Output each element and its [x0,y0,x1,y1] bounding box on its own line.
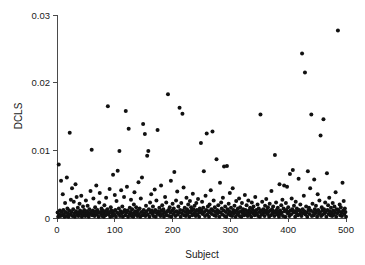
data-point [258,112,262,116]
data-point [306,169,310,173]
x-tick-label: 300 [222,224,238,235]
data-point [116,169,120,173]
data-point [171,202,175,206]
data-point [252,205,256,209]
data-point [314,204,318,208]
data-point [279,203,283,207]
data-point [74,182,78,186]
data-point [285,185,289,189]
data-point [146,149,150,153]
data-point [278,182,282,186]
data-point [61,192,65,196]
data-point [179,201,183,205]
data-point [208,202,212,206]
data-point [98,191,102,195]
data-point [144,204,148,208]
data-point [124,109,128,113]
data-point [75,195,79,199]
data-point [325,171,329,175]
data-point [336,29,340,33]
data-point [309,112,313,116]
data-point [343,210,347,214]
data-point [246,198,250,202]
data-point [308,186,312,190]
data-point [331,201,335,205]
data-point [273,153,277,157]
data-point [137,180,141,184]
data-point [57,163,61,167]
data-point [164,200,168,204]
data-point [298,202,302,206]
data-point [232,204,236,208]
data-point [79,194,83,198]
data-point [90,148,94,152]
data-point [260,200,264,204]
data-point [343,207,347,211]
x-tick-label: 500 [338,224,354,235]
data-point [97,200,101,204]
data-point [205,131,209,135]
x-axis-ticks: 0100200300400500 [54,218,354,235]
y-axis-group: 00.010.020.03 DCLS [13,10,57,224]
data-point [245,203,249,207]
data-point [319,133,323,137]
data-point [179,215,183,219]
data-point [151,205,155,209]
data-point [215,157,219,161]
data-point [160,203,164,207]
data-point [197,215,201,219]
data-point [176,205,180,209]
data-point [108,187,112,191]
data-point [321,117,325,121]
data-point [253,195,257,199]
data-point [204,194,208,198]
data-point [68,131,72,135]
data-point [196,197,200,201]
data-point [194,201,198,205]
data-point [113,193,117,197]
data-point [237,196,241,200]
data-point [264,197,268,201]
data-point [316,192,320,196]
data-point [271,205,275,209]
data-point [191,192,195,196]
data-point [169,179,173,183]
data-point [209,188,213,192]
data-point [290,196,294,200]
data-point [342,199,346,203]
data-point [302,194,306,198]
y-tick-label: 0.02 [32,77,51,88]
data-point [227,202,231,206]
data-point [218,181,222,185]
data-point [125,185,129,189]
data-point [269,189,273,193]
data-point [119,188,123,192]
data-point [63,201,67,205]
data-point [140,175,144,179]
data-point [143,132,147,136]
data-point [122,195,126,199]
data-point [84,198,88,202]
data-point [127,127,131,131]
data-point [141,122,145,126]
data-point [104,196,108,200]
data-point [231,186,235,190]
y-axis-ticks: 00.010.020.03 [32,10,58,224]
data-point [117,149,121,153]
data-point [249,215,253,219]
data-point [132,190,136,194]
data-point [94,184,98,188]
data-point [129,198,133,202]
data-point [268,202,272,206]
data-point [115,199,119,203]
data-point [134,205,138,209]
data-point [310,202,314,206]
data-point [59,179,63,183]
data-point [166,92,170,96]
data-point [199,141,203,145]
data-point [175,190,179,194]
data-point [168,205,172,209]
y-tick-label: 0.03 [32,10,51,21]
data-point [86,204,90,208]
data-point [344,215,348,219]
